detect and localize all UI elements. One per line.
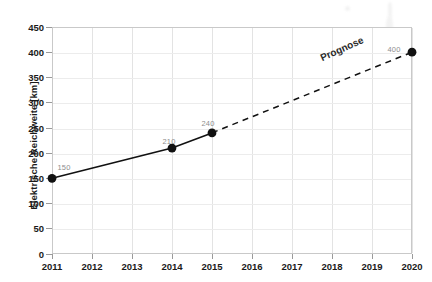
gridline-vertical [332,28,333,253]
y-tick-label-450: 450 [18,23,44,33]
x-tick-mark [132,254,133,259]
x-tick-mark [172,254,173,259]
gridline-vertical [212,28,213,253]
gridline-vertical [412,28,413,253]
gridline-vertical [252,28,253,253]
gridline-horizontal [53,78,411,79]
y-tick-label-200: 200 [18,149,44,159]
x-tick-mark [372,254,373,259]
y-tick-label-400: 400 [18,48,44,58]
gridline-vertical [372,28,373,253]
gridline-horizontal [53,129,411,130]
x-tick-label-2020: 2020 [389,262,432,272]
gridline-vertical [292,28,293,253]
gridline-vertical [132,28,133,253]
gridline-horizontal [53,53,411,54]
data-label-2011: 150 [57,163,70,172]
y-axis-tick-labels: 450 400 350 300 250 200 150 100 50 0 [18,0,44,282]
y-tick-label-100: 100 [18,199,44,209]
data-label-2015: 240 [201,119,214,128]
data-label-2014: 210 [162,137,175,146]
x-tick-mark [92,254,93,259]
x-tick-mark [412,254,413,259]
x-tick-mark [252,254,253,259]
y-tick-label-300: 300 [18,98,44,108]
y-tick-label-50: 50 [18,224,44,234]
gridline-horizontal [53,179,411,180]
gridline-horizontal [53,229,411,230]
gridline-horizontal [53,103,411,104]
x-tick-mark [292,254,293,259]
y-tick-label-350: 350 [18,73,44,83]
data-label-2020: 400 [387,45,400,54]
electric-range-line-chart: Elektrische Reichweite [km] 450 400 350 … [0,0,432,282]
x-tick-mark [212,254,213,259]
gridline-horizontal [53,204,411,205]
y-tick-label-0: 0 [18,250,44,260]
scan-artifact [345,6,350,11]
gridline-horizontal [53,154,411,155]
y-tick-label-150: 150 [18,174,44,184]
gridline-vertical [92,28,93,253]
x-tick-mark [52,254,53,259]
plot-area [52,27,412,254]
y-tick-label-250: 250 [18,124,44,134]
x-tick-mark [332,254,333,259]
